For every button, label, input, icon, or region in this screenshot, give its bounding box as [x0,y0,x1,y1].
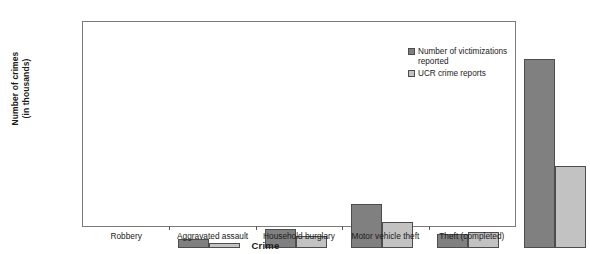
chart-legend: Number of victimizations reportedUCR cri… [408,47,588,82]
x-axis-title: Crime [0,240,531,251]
bar-group [351,44,413,248]
x-axis-tick-mark [342,226,343,230]
y-axis: 0150030004500600075009000105001200013500… [0,0,82,254]
bar-4-1 [555,166,586,248]
legend-label: UCR crime reports [418,69,486,79]
bar-group [265,44,327,248]
legend-item: UCR crime reports [408,69,588,79]
legend-item: Number of victimizations reported [408,47,588,66]
bar-4-0 [524,59,555,248]
legend-label: Number of victimizations reported [418,47,507,66]
bar-group [178,44,240,248]
legend-swatch [408,48,415,55]
x-axis-tick-mark [169,226,170,230]
plot-area: Number of victimizations reportedUCR cri… [82,21,516,227]
legend-swatch [408,70,415,77]
x-axis-tick-mark [256,226,257,230]
x-axis-tick-mark [429,226,430,230]
